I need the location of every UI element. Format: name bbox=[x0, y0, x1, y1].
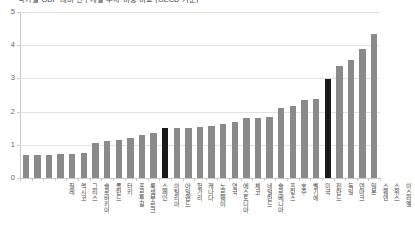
x-axis-tick-mark bbox=[380, 178, 381, 181]
bar bbox=[69, 154, 75, 178]
bar bbox=[208, 126, 214, 178]
x-axis-tick-mark bbox=[334, 178, 335, 181]
bar-series bbox=[20, 12, 380, 178]
bar bbox=[104, 141, 110, 178]
x-axis-ticks bbox=[20, 178, 380, 182]
x-axis-tick-mark bbox=[345, 178, 346, 181]
bar bbox=[336, 66, 342, 178]
x-axis-tick-mark bbox=[299, 178, 300, 181]
x-axis-tick-mark bbox=[171, 178, 172, 181]
y-axis-tick-label: 5 bbox=[0, 8, 15, 16]
x-axis-tick-mark bbox=[78, 178, 79, 181]
x-axis-tick-mark bbox=[66, 178, 67, 181]
y-axis-tick-label: 2 bbox=[0, 108, 15, 116]
bar bbox=[266, 117, 272, 178]
bar bbox=[313, 99, 319, 178]
y-axis-tick-label: 4 bbox=[0, 41, 15, 49]
bar bbox=[232, 122, 238, 178]
x-axis-category-label bbox=[371, 183, 415, 235]
bar bbox=[290, 106, 296, 178]
chart-title: 국가별 GDP 대비 연구개발 투자 비중 비교 (OECD 기준) bbox=[18, 0, 378, 3]
x-axis-tick-mark bbox=[183, 178, 184, 181]
x-axis-tick-mark bbox=[252, 178, 253, 181]
x-axis-tick-mark bbox=[287, 178, 288, 181]
x-axis-tick-mark bbox=[357, 178, 358, 181]
bar bbox=[150, 133, 156, 178]
bar bbox=[243, 118, 249, 178]
x-axis-tick-mark bbox=[264, 178, 265, 181]
bar bbox=[127, 138, 133, 179]
bar bbox=[185, 128, 191, 178]
x-axis-tick-mark bbox=[125, 178, 126, 181]
x-axis-tick-mark bbox=[217, 178, 218, 181]
bar bbox=[116, 140, 122, 178]
bar bbox=[139, 135, 145, 178]
bar bbox=[34, 155, 40, 178]
x-axis-tick-mark bbox=[148, 178, 149, 181]
x-axis-tick-mark bbox=[113, 178, 114, 181]
x-axis-tick-mark bbox=[206, 178, 207, 181]
bar bbox=[92, 143, 98, 178]
bar bbox=[162, 128, 168, 178]
x-axis-tick-mark bbox=[32, 178, 33, 181]
x-axis-category-labels: 칠레멕시코그리스슬로바키아폴란드터키포르투갈룩셈부르크스페인이탈리아아일랜드헝가… bbox=[20, 183, 380, 237]
x-axis-tick-mark bbox=[194, 178, 195, 181]
bar bbox=[46, 155, 52, 178]
x-axis-tick-mark bbox=[55, 178, 56, 181]
y-axis-tick-label: 1 bbox=[0, 141, 15, 149]
y-axis-tick-label: 0 bbox=[0, 174, 15, 182]
x-axis-tick-mark bbox=[43, 178, 44, 181]
x-axis-tick-mark bbox=[229, 178, 230, 181]
bar bbox=[359, 49, 365, 178]
bar bbox=[81, 153, 87, 178]
x-axis-tick-mark bbox=[90, 178, 91, 181]
x-axis-tick-mark bbox=[322, 178, 323, 181]
x-axis-tick-mark bbox=[241, 178, 242, 181]
x-axis-tick-mark bbox=[136, 178, 137, 181]
bar bbox=[174, 128, 180, 178]
bar bbox=[371, 34, 377, 178]
bar bbox=[348, 60, 354, 178]
x-axis-tick-mark bbox=[310, 178, 311, 181]
bar bbox=[57, 154, 63, 178]
bar bbox=[255, 118, 261, 178]
x-axis-tick-mark bbox=[159, 178, 160, 181]
bar bbox=[325, 79, 331, 178]
bar bbox=[220, 124, 226, 178]
bar bbox=[278, 108, 284, 178]
x-axis-tick-mark bbox=[101, 178, 102, 181]
bar bbox=[301, 100, 307, 178]
x-axis-tick-mark bbox=[275, 178, 276, 181]
bar bbox=[23, 155, 29, 178]
bar bbox=[197, 127, 203, 178]
x-axis-tick-mark bbox=[20, 178, 21, 181]
x-axis-tick-mark bbox=[368, 178, 369, 181]
y-axis-tick-label: 3 bbox=[0, 74, 15, 82]
